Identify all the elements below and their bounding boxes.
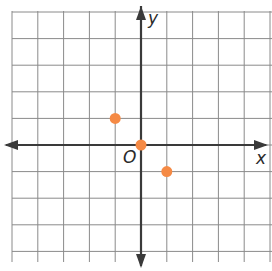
data-point [136, 140, 147, 151]
x-axis-label: x [255, 148, 267, 168]
y-axis-down-arrow-icon [136, 254, 146, 268]
y-axis-up-arrow-icon [136, 6, 146, 20]
data-point [161, 166, 172, 177]
coordinate-plane: y x O [0, 0, 272, 271]
data-point [110, 113, 121, 124]
axes [4, 6, 268, 268]
origin-label: O [123, 147, 136, 167]
y-axis-label: y [147, 8, 159, 28]
x-axis-left-arrow-icon [4, 140, 18, 150]
